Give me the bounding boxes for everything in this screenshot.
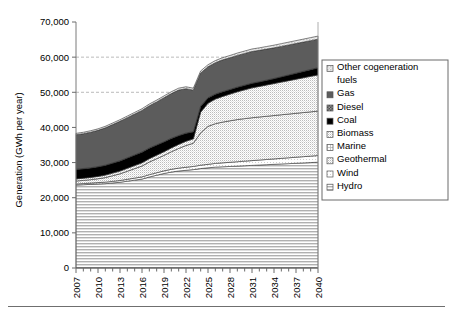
legend-swatch-biomass [327, 131, 333, 137]
legend-label-gas: Gas [337, 87, 355, 98]
x-tick-label: 2040 [313, 277, 324, 298]
y-axis-title: Generation (GWh per year) [13, 92, 24, 207]
legend-swatch-other-cogeneration-fuels [327, 65, 333, 71]
x-tick-label: 2016 [137, 277, 148, 298]
y-tick-label: 30,000 [40, 157, 69, 168]
x-tick-label: 2022 [181, 277, 192, 298]
legend-label-wind: Wind [337, 167, 359, 178]
x-tick-label: 2031 [247, 277, 258, 298]
area-bands [76, 36, 318, 268]
legend-swatch-marine [327, 145, 333, 151]
legend-swatch-hydro [327, 184, 333, 190]
chart-canvas: Generation (GWh per year) 010,00020,0003… [0, 0, 453, 320]
y-axis-title-text: Generation (GWh per year) [13, 92, 24, 207]
y-tick-label: 20,000 [40, 192, 69, 203]
legend-label-biomass: Biomass [337, 127, 374, 138]
y-tick-label: 60,000 [40, 52, 69, 63]
x-tick-label: 2013 [115, 277, 126, 298]
chart-legend: Other cogenerationfuelsGasDieselCoalBiom… [322, 60, 448, 200]
x-tick-label: 2028 [225, 277, 236, 298]
y-tick-label: 70,000 [40, 16, 69, 27]
x-tick-label: 2025 [203, 277, 214, 298]
legend-label-hydro: Hydro [337, 180, 362, 191]
legend-label-other-cogeneration-fuels-cont: fuels [337, 74, 357, 85]
x-axis-ticks: 2007201020132016201920222025202820312034… [71, 268, 324, 298]
x-tick-label: 2034 [269, 277, 280, 298]
legend-swatch-coal [327, 118, 333, 124]
x-tick-label: 2037 [291, 277, 302, 298]
legend-swatch-geothermal [327, 158, 333, 164]
legend-swatch-gas [327, 92, 333, 98]
y-tick-label: 0 [64, 262, 69, 273]
y-tick-label: 10,000 [40, 227, 69, 238]
page-footer-rule [8, 306, 445, 307]
legend-label-marine: Marine [337, 140, 366, 151]
legend-label-diesel: Diesel [337, 101, 363, 112]
legend-label-geothermal: Geothermal [337, 153, 387, 164]
legend-label-coal: Coal [337, 114, 357, 125]
stacked-area-chart-figure: Generation (GWh per year) 010,00020,0003… [0, 0, 453, 320]
x-tick-label: 2019 [159, 277, 170, 298]
legend-swatch-diesel [327, 105, 333, 111]
x-tick-label: 2007 [71, 277, 82, 298]
x-tick-label: 2010 [93, 277, 104, 298]
legend-swatch-wind [327, 171, 333, 177]
y-axis-ticks: 010,00020,00030,00040,00050,00060,00070,… [40, 16, 76, 273]
y-tick-label: 40,000 [40, 122, 69, 133]
y-tick-label: 50,000 [40, 87, 69, 98]
legend-label-other-cogeneration-fuels: Other cogeneration [337, 61, 418, 72]
